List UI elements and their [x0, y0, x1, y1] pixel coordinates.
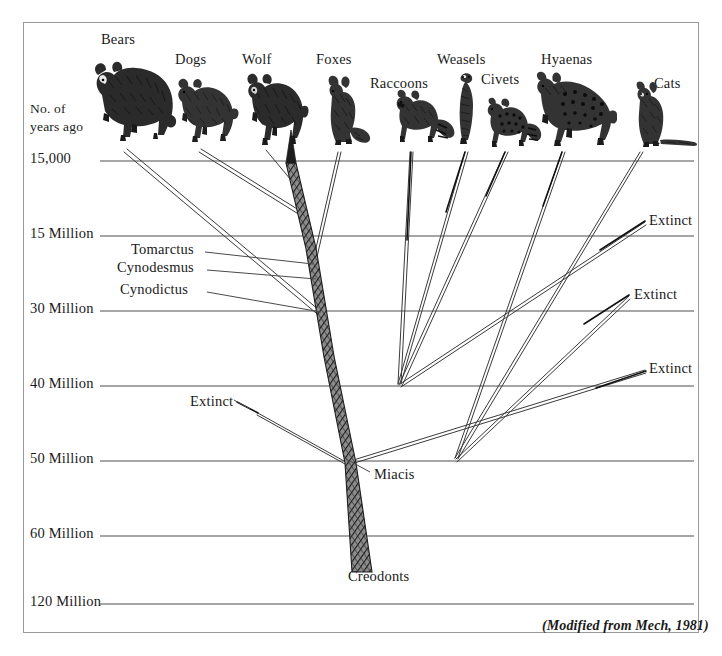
y-tick-120-million: 120 Million [30, 593, 101, 610]
lineage-branches [124, 149, 646, 465]
tip-civets [486, 152, 505, 196]
animal-illustration-weasels [454, 72, 482, 146]
taxon-label-wolf: Wolf [242, 51, 271, 68]
node-label-miacis: Miacis [374, 466, 415, 483]
taxon-label-civets: Civets [481, 71, 519, 88]
animal-illustration-dogs [172, 72, 240, 146]
tip-extinct-middle [584, 295, 629, 324]
genus-label-tomarctus: Tomarctus [131, 241, 194, 258]
taxon-label-foxes: Foxes [316, 51, 352, 68]
animal-illustration-hyaenas [527, 70, 617, 146]
y-tick-15000: 15,000 [30, 150, 71, 167]
leader-cynodesmus [207, 270, 316, 279]
node-label-extinct-left: Extinct [190, 393, 233, 410]
figure-credit: (Modified from Mech, 1981) [542, 618, 709, 634]
y-tick-30-million: 30 Million [30, 300, 94, 317]
extinct-label-upper: Extinct [649, 212, 692, 229]
genus-label-cynodictus: Cynodictus [120, 281, 188, 298]
leader-extinct-left [234, 400, 250, 409]
y-tick-60-million: 60 Million [30, 525, 94, 542]
leader-tomarctus [205, 252, 313, 264]
extinct-label-lower: Extinct [649, 360, 692, 377]
animal-illustration-cats [624, 80, 698, 148]
y-tick-40-million: 40 Million [30, 375, 94, 392]
taxon-label-weasels: Weasels [437, 51, 486, 68]
main-trunk-creodont-lineage [286, 130, 372, 572]
axis-title-line2: years ago [30, 118, 83, 135]
y-tick-50-million: 50 Million [30, 450, 94, 467]
branch-extinct-upper [400, 222, 646, 387]
animal-illustration-bears [88, 55, 180, 145]
tip-hyaenas [543, 152, 562, 206]
taxon-label-bears: Bears [101, 31, 135, 48]
trunk-band-crosshatch [286, 163, 372, 572]
animal-illustration-foxes [318, 74, 372, 146]
branch-extinct-left [256, 412, 345, 464]
taxon-label-hyaenas: Hyaenas [541, 51, 592, 68]
genus-label-cynodesmus: Cynodesmus [117, 259, 194, 276]
node-label-creodonts: Creodonts [348, 568, 409, 585]
branch-extinct-lower [347, 370, 646, 465]
extinct-label-middle: Extinct [634, 286, 677, 303]
y-tick-15-million: 15 Million [30, 225, 94, 242]
animal-illustration-wolf [240, 70, 310, 146]
animal-illustration-raccoons [390, 86, 456, 146]
leader-cynodictus [207, 292, 321, 312]
axis-title-line1: No. of [30, 100, 66, 117]
